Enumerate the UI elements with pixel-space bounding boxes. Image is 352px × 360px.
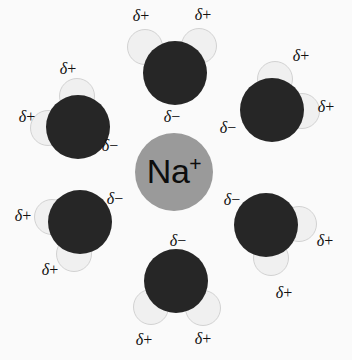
minus-glyph: − xyxy=(227,119,236,136)
water-lower-left-oxygen xyxy=(48,190,112,254)
water-lower-left-delta-plus-label-1: δ+ xyxy=(15,208,31,224)
minus-glyph: − xyxy=(177,232,186,249)
water-lower-left-delta-minus-label-3: δ− xyxy=(107,191,123,207)
sodium-ion-label: Na+ xyxy=(147,154,201,188)
plus-glyph: + xyxy=(67,60,76,77)
minus-glyph: − xyxy=(171,108,180,125)
water-upper-left-delta-plus-label-2: δ+ xyxy=(19,109,35,125)
plus-glyph: + xyxy=(300,47,309,64)
water-lower-right-delta-plus-label-2: δ+ xyxy=(276,285,292,301)
plus-glyph: + xyxy=(325,98,334,115)
plus-glyph: + xyxy=(26,108,35,125)
water-top-delta-minus-label-3: δ− xyxy=(164,109,180,125)
plus-glyph: + xyxy=(324,232,333,249)
minus-glyph: − xyxy=(231,191,240,208)
plus-glyph: + xyxy=(202,330,211,347)
water-top-delta-plus-label-1: δ+ xyxy=(133,8,149,24)
plus-glyph: + xyxy=(202,6,211,23)
water-upper-left-oxygen xyxy=(46,95,110,159)
sodium-ion: Na+ xyxy=(135,133,213,211)
water-upper-right-oxygen xyxy=(240,78,304,142)
water-top-delta-plus-label-2: δ+ xyxy=(195,7,211,23)
water-lower-right-oxygen xyxy=(234,193,298,257)
plus-glyph: + xyxy=(140,7,149,24)
minus-glyph: − xyxy=(109,137,118,154)
water-upper-right-delta-minus-label-3: δ− xyxy=(220,120,236,136)
plus-glyph: + xyxy=(49,261,58,278)
water-upper-left-delta-plus-label-1: δ+ xyxy=(60,61,76,77)
water-bottom-delta-plus-label-2: δ+ xyxy=(136,332,152,348)
water-upper-right-delta-plus-label-1: δ+ xyxy=(293,48,309,64)
water-lower-right-delta-minus-label-3: δ− xyxy=(224,192,240,208)
water-lower-right-delta-plus-label-1: δ+ xyxy=(317,233,333,249)
water-top-oxygen xyxy=(143,41,207,105)
plus-glyph: + xyxy=(22,207,31,224)
water-lower-left-delta-plus-label-2: δ+ xyxy=(42,262,58,278)
water-bottom-delta-minus-label-1: δ− xyxy=(170,233,186,249)
plus-glyph: + xyxy=(283,284,292,301)
water-upper-right-delta-plus-label-2: δ+ xyxy=(318,99,334,115)
water-upper-left-delta-minus-label-3: δ− xyxy=(102,138,118,154)
plus-glyph: + xyxy=(143,331,152,348)
solvation-diagram: Na+ δ+δ+δ−δ+δ+δ−δ+δ+δ−δ+δ+δ−δ+δ+δ−δ−δ+δ+ xyxy=(0,0,352,360)
water-bottom-delta-plus-label-3: δ+ xyxy=(195,331,211,347)
minus-glyph: − xyxy=(114,190,123,207)
water-bottom-oxygen xyxy=(144,249,208,313)
